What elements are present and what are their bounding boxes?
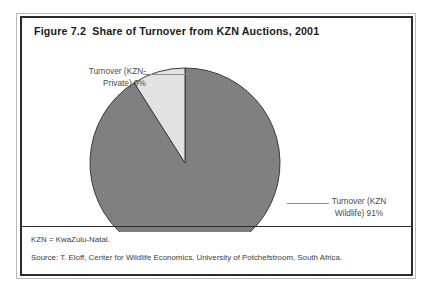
source-note: Source: T. Eloff, Center for Wildlife Ec… [31, 249, 406, 267]
figure-container: Figure 7.2 Share of Turnover from KZN Au… [0, 0, 430, 293]
pie-chart-plot-area: Turnover (KZN- Private) 9% Turnover (KZN… [22, 40, 411, 232]
figure-title: Figure 7.2 Share of Turnover from KZN Au… [34, 25, 319, 37]
pie-label-private: Turnover (KZN- Private) 9% [50, 66, 146, 89]
footer-divider [22, 226, 411, 227]
abbreviation-note: KZN = KwaZulu-Natal. [31, 231, 406, 249]
figure-notes: KZN = KwaZulu-Natal. Source: T. Eloff, C… [31, 231, 406, 267]
leader-line-private [143, 74, 189, 75]
figure-inner-border: Figure 7.2 Share of Turnover from KZN Au… [20, 16, 413, 276]
pie-label-wildlife: Turnover (KZN Wildlife) 91% [309, 196, 409, 219]
